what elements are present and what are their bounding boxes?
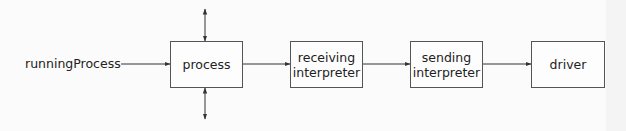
receiving-interpreter-label-line2: interpreter	[293, 65, 360, 80]
receiving-interpreter-label-line1: receiving	[293, 50, 360, 65]
process-node: process	[170, 41, 243, 88]
sending-interpreter-node: sending interpreter	[410, 41, 483, 88]
process-node-label: process	[182, 57, 230, 72]
driver-node-label: driver	[550, 57, 587, 72]
driver-node: driver	[531, 41, 605, 88]
sending-interpreter-label-line2: interpreter	[413, 65, 480, 80]
sending-interpreter-label-line1: sending	[413, 50, 480, 65]
receiving-interpreter-node: receiving interpreter	[290, 41, 363, 88]
running-process-label: runningProcess	[25, 56, 121, 71]
